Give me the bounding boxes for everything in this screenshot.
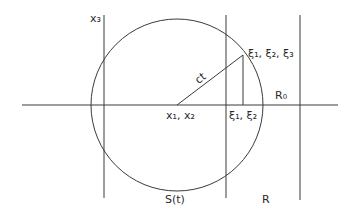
label-R0: R₀ (275, 89, 288, 102)
label-point-proj: ξ₁, ξ₂ (229, 109, 257, 122)
label-origin: x₁, x₂ (166, 109, 195, 122)
label-point-3d: ξ₁, ξ₂, ξ₃ (248, 47, 294, 60)
radius-ct (177, 55, 243, 105)
wave-propagation-diagram: x₃ x₁, x₂ ct ξ₁, ξ₂, ξ₃ ξ₁, ξ₂ S(t) R R₀ (0, 0, 350, 212)
label-x3: x₃ (90, 12, 101, 25)
label-ct: ct (192, 70, 209, 87)
label-sphere: S(t) (165, 193, 185, 206)
label-R: R (262, 193, 270, 206)
